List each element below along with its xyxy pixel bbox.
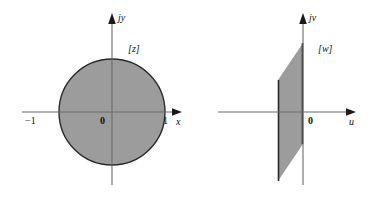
w-horizontal-axis-arrow	[346, 108, 356, 116]
w-vertical-axis-label: jv	[309, 13, 316, 23]
w-plane-panel	[218, 13, 356, 185]
z-tick-minus-one-label: −1	[25, 116, 36, 126]
z-plane-panel	[22, 13, 182, 185]
z-vertical-axis-label: jy	[118, 13, 125, 23]
w-horizontal-axis-label: u	[349, 117, 354, 127]
figure-canvas	[0, 0, 375, 206]
w-vertical-axis-arrow	[299, 13, 307, 24]
z-tick-one-label: 1	[163, 116, 168, 126]
z-vertical-axis-arrow	[108, 13, 116, 24]
w-origin-label: 0	[308, 116, 313, 126]
complex-plane-mapping-figure: jy [z] −1 0 1 x jv [w] 0 u	[0, 0, 375, 206]
z-horizontal-axis-arrow	[172, 108, 182, 116]
z-origin-label: 0	[100, 116, 105, 126]
w-plane-label: [w]	[318, 44, 332, 54]
z-plane-label: [z]	[128, 44, 140, 54]
z-horizontal-axis-label: x	[176, 117, 180, 127]
